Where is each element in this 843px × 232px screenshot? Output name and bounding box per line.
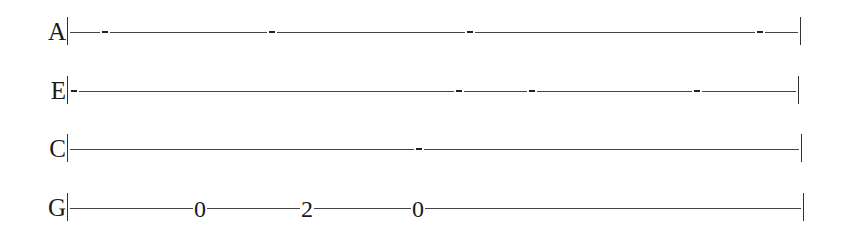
rest-dash	[269, 31, 275, 33]
rest-dash	[102, 31, 108, 33]
end-bar-line	[803, 193, 804, 221]
string-label: C	[40, 136, 66, 161]
rest-dash	[757, 31, 763, 33]
rest-dash	[694, 90, 700, 92]
fret-number: 0	[193, 197, 207, 221]
start-bar-line	[67, 76, 68, 104]
start-bar-line	[67, 134, 68, 162]
start-bar-line	[67, 17, 68, 45]
string-e: E	[0, 71, 843, 111]
string-line	[70, 149, 799, 150]
rest-dash	[467, 31, 473, 33]
start-bar-line	[67, 193, 68, 221]
end-bar-line	[800, 17, 801, 45]
string-label: A	[40, 19, 66, 44]
string-label: E	[40, 78, 66, 103]
string-line	[70, 91, 796, 92]
string-label: G	[40, 195, 66, 220]
end-bar-line	[801, 134, 802, 162]
string-g: G020	[0, 188, 843, 228]
rest-dash	[529, 90, 535, 92]
rest-dash	[416, 148, 422, 150]
end-bar-line	[798, 76, 799, 104]
fret-number: 0	[411, 197, 425, 221]
string-c: C	[0, 129, 843, 169]
fret-number: 2	[300, 197, 314, 221]
rest-dash	[71, 90, 77, 92]
string-line	[70, 32, 798, 33]
string-line	[70, 208, 801, 209]
string-a: A	[0, 12, 843, 52]
rest-dash	[456, 90, 462, 92]
